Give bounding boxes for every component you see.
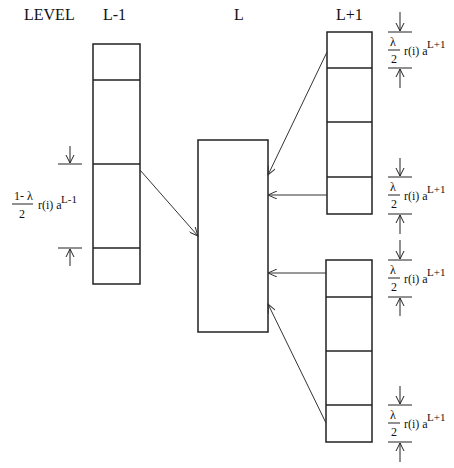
formula-body: r(i) a xyxy=(404,272,428,286)
header-level-l: L xyxy=(234,6,244,23)
column-l-minus-1 xyxy=(93,44,140,284)
fraction-denominator: 2 xyxy=(391,197,397,211)
fraction-numerator: 1- λ xyxy=(14,189,33,203)
formula-body: r(i) a xyxy=(38,198,62,212)
dimension-right-2: λ 2 r(i) a L+1 xyxy=(388,158,445,234)
header-level: LEVEL xyxy=(24,6,75,23)
header-level-l-plus-1: L+1 xyxy=(336,6,363,23)
fraction-denominator: 2 xyxy=(391,52,397,66)
formula-superscript: L+1 xyxy=(427,183,445,195)
formula-body: r(i) a xyxy=(404,44,428,58)
dimension-right-1: λ 2 r(i) a L+1 xyxy=(388,12,445,88)
formula-superscript: L+1 xyxy=(427,266,445,278)
fraction-numerator: λ xyxy=(390,180,396,194)
column-l-plus-1-bottom xyxy=(326,260,372,442)
dimension-right-4: λ 2 r(i) a L+1 xyxy=(388,386,445,462)
formula-body: r(i) a xyxy=(404,189,428,203)
arrow-right-bottom-2-to-middle xyxy=(268,304,326,423)
diagram-svg: LEVEL L-1 L L+1 xyxy=(0,0,454,468)
dimension-left: 1- λ 2 r(i) a L-1 xyxy=(12,146,82,266)
dimension-right-3: λ 2 r(i) a L+1 xyxy=(388,240,445,316)
fraction-denominator: 2 xyxy=(19,207,25,221)
multilevel-buffer-diagram: LEVEL L-1 L L+1 xyxy=(0,0,454,468)
fraction-numerator: λ xyxy=(390,35,396,49)
buffer-middle-l xyxy=(198,140,268,332)
formula-body: r(i) a xyxy=(404,417,428,431)
arrow-left-to-middle xyxy=(140,170,198,236)
fraction-numerator: λ xyxy=(390,263,396,277)
column-l-plus-1-top xyxy=(327,32,372,214)
formula-superscript: L+1 xyxy=(427,38,445,50)
fraction-numerator: λ xyxy=(390,408,396,422)
formula-superscript: L+1 xyxy=(427,411,445,423)
buffer-stack-right-top xyxy=(327,32,372,214)
header-level-l-minus-1: L-1 xyxy=(103,6,126,23)
formula-superscript: L-1 xyxy=(61,193,77,205)
fraction-denominator: 2 xyxy=(391,425,397,439)
fraction-denominator: 2 xyxy=(391,280,397,294)
arrow-right-top-1-to-middle xyxy=(268,52,327,175)
